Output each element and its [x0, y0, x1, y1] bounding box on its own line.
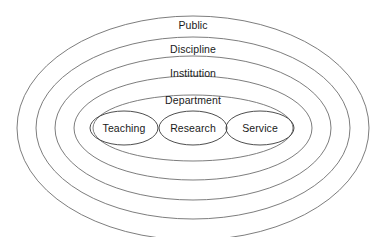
core-label-research: Research: [170, 122, 216, 134]
nested-ellipse-diagram: [0, 0, 386, 237]
ring-label-public: Public: [178, 19, 207, 31]
ring-label-institution: Institution: [170, 67, 216, 79]
ring-label-department: Department: [165, 94, 221, 106]
core-label-teaching: Teaching: [103, 122, 146, 134]
diagram-canvas: Public Discipline Institution Department…: [0, 0, 386, 237]
ring-label-discipline: Discipline: [170, 43, 216, 55]
core-label-service: Service: [242, 122, 278, 134]
